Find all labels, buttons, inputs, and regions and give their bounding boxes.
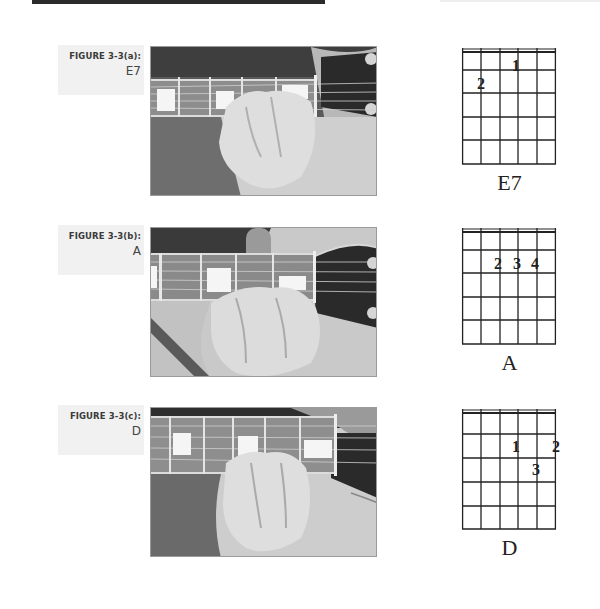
chord-name: D [462,535,557,561]
finger-number: 1 [512,438,520,455]
finger-number: 2 [477,75,485,92]
chord-grid: 2 3 4 [462,228,557,346]
finger-number: 3 [513,255,521,272]
figure-number: FIGURE 3-3(a): [58,51,141,61]
chord-grid: 1 2 [462,48,557,166]
header-rule-right [440,0,600,2]
figure-caption: FIGURE 3-3(a): E7 [58,45,144,95]
chord-photo [150,46,377,196]
header-rule [32,0,325,4]
finger-number: 2 [494,255,502,272]
figure-number: FIGURE 3-3(c): [58,411,141,421]
chord-diagram: 1 2 E7 [462,48,557,166]
finger-number: 3 [532,461,540,478]
figure-caption: FIGURE 3-3(c): D [58,405,144,455]
figure-chord-name: A [58,244,141,258]
figure-caption: FIGURE 3-3(b): A [58,225,144,275]
finger-number: 2 [552,438,560,455]
chord-photo [150,227,377,377]
chord-name: A [462,350,557,376]
figure-number: FIGURE 3-3(b): [58,231,141,241]
chord-diagram: 1 2 3 D [462,409,557,531]
chord-grid: 1 2 3 [462,409,557,531]
chord-name: E7 [462,170,557,196]
figure-chord-name: E7 [58,64,141,78]
finger-number: 4 [531,255,539,272]
chord-photo [150,407,377,557]
finger-number: 1 [512,57,520,74]
figure-chord-name: D [58,424,141,438]
chord-diagram: 2 3 4 A [462,228,557,346]
